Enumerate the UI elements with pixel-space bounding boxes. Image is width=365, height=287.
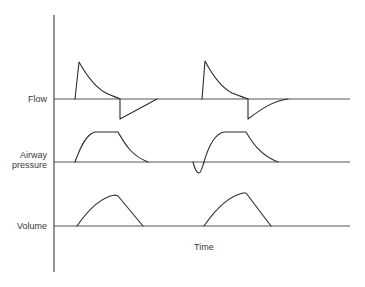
airway-pressure-label: Airway pressure [0,150,47,170]
flow-label: Flow [0,94,47,104]
waveform-canvas [0,0,365,287]
volume-label: Volume [0,221,47,231]
time-axis-label: Time [194,242,214,252]
volume-waveform [77,193,271,226]
flow-waveform [75,61,288,119]
airway-pressure-label-line1: Airway [0,150,47,160]
airway-pressure-waveform [75,132,278,173]
airway-pressure-label-line2: pressure [0,160,47,170]
